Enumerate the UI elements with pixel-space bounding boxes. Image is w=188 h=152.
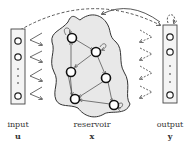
input-layer: [11, 29, 25, 104]
output-feedback-connection: [102, 9, 160, 22]
input-label: input: [0, 120, 38, 130]
reservoir-symbol: x: [72, 131, 112, 141]
input-symbol: u: [0, 131, 38, 141]
output-symbol: y: [150, 131, 188, 141]
output-layer: [163, 25, 177, 103]
reservoir-label: reservoir: [72, 120, 112, 130]
output-connections: [140, 30, 152, 98]
output-self-loop: [167, 15, 174, 23]
output-label: output: [150, 120, 188, 130]
input-connections: [30, 33, 42, 99]
